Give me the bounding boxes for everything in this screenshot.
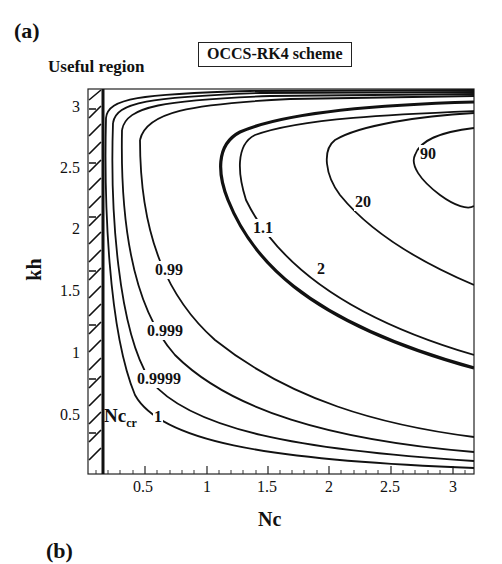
contour-label-0.999: 0.999 — [146, 322, 184, 340]
contour-label-20: 20 — [354, 193, 372, 211]
critical-nc-main: Nc — [104, 405, 126, 426]
critical-nc-label: Nccr — [104, 405, 137, 431]
contour-label-90: 90 — [419, 145, 437, 163]
x-tick-2.5: 2.5 — [380, 478, 400, 496]
contour-label-2: 2 — [316, 260, 326, 278]
contour-label-1: 1 — [153, 408, 163, 426]
y-tick-0.5: 0.5 — [60, 406, 80, 424]
y-tick-1.5: 1.5 — [60, 282, 80, 300]
contour-20 — [327, 113, 474, 285]
y-tick-2: 2 — [72, 220, 80, 238]
x-tick-1.5: 1.5 — [257, 478, 277, 496]
x-tick-0.5: 0.5 — [133, 478, 153, 496]
contour-label-1.1: 1.1 — [252, 219, 274, 237]
contour-2 — [240, 111, 474, 355]
contour-label-0.9999: 0.9999 — [136, 370, 182, 388]
critical-nc-sub: cr — [126, 416, 137, 430]
x-axis-ticks — [96, 466, 465, 474]
contour-90 — [414, 128, 474, 208]
panel-label-b: (b) — [46, 538, 73, 564]
x-tick-3: 3 — [449, 478, 457, 496]
y-tick-2.5: 2.5 — [60, 159, 80, 177]
contour-label-0.99: 0.99 — [154, 261, 184, 279]
x-tick-2: 2 — [325, 478, 333, 496]
y-tick-1: 1 — [72, 344, 80, 362]
useful-region-hatch — [89, 89, 103, 474]
y-tick-3: 3 — [72, 98, 80, 116]
x-tick-1: 1 — [203, 478, 211, 496]
y-axis-label: kh — [23, 250, 46, 290]
x-axis-label: Nc — [258, 508, 281, 531]
